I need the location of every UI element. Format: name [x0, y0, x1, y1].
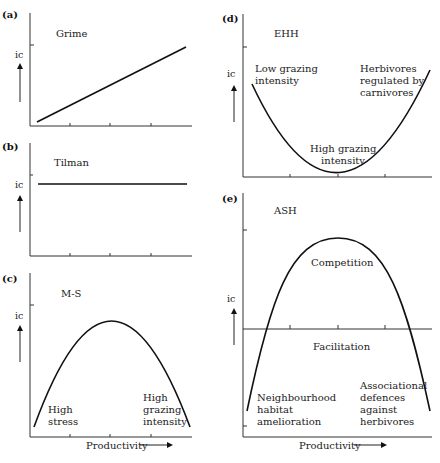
y-axis-label: ic	[15, 179, 23, 190]
note-herbivores-regulated: Herbivores	[360, 63, 417, 74]
svg-text:intensity: intensity	[321, 155, 365, 166]
svg-text:defences: defences	[360, 392, 405, 403]
panel-d-id: (d)	[222, 13, 238, 24]
x-axis-label: Productivity	[86, 440, 148, 451]
panel-e: (e) ASH ic Competition Facilitation Neig…	[222, 193, 432, 451]
competition-models-figure: (a) Grime ic (b) Tilman ic (c) M-S ic	[0, 0, 440, 463]
svg-text:intensity: intensity	[143, 416, 187, 427]
y-axis-label: ic	[227, 293, 235, 304]
svg-text:grazing: grazing	[143, 404, 182, 415]
note-neighbourhood: Neighbourhood	[257, 392, 337, 403]
note-high-grazing: High grazing	[310, 143, 377, 154]
note-high-stress: High	[48, 404, 73, 415]
svg-text:regulated by: regulated by	[360, 75, 425, 86]
svg-text:habitat: habitat	[257, 404, 293, 415]
note-competition: Competition	[311, 257, 374, 268]
svg-text:against: against	[360, 404, 397, 415]
panel-b-id: (b)	[2, 141, 18, 152]
svg-text:amelioration: amelioration	[257, 416, 322, 427]
panel-title: Tilman	[54, 157, 90, 168]
note-associational: Associational	[359, 380, 427, 391]
svg-text:carnivores: carnivores	[360, 87, 413, 98]
panel-a-id: (a)	[2, 9, 18, 20]
panel-a: (a) Grime ic	[2, 9, 192, 126]
svg-text:herbivores: herbivores	[360, 416, 414, 427]
y-axis-label: ic	[15, 310, 23, 321]
panel-d: (d) EHH ic Low grazing intensity High gr…	[222, 13, 432, 177]
panel-b: (b) Tilman ic	[2, 141, 192, 256]
y-axis-label: ic	[15, 49, 23, 60]
panel-title: ASH	[273, 205, 297, 216]
panel-title: M-S	[61, 288, 82, 299]
svg-text:intensity: intensity	[255, 75, 299, 86]
note-high-grazing: High	[143, 392, 168, 403]
note-facilitation: Facilitation	[313, 341, 371, 352]
x-axis-label: Productivity	[299, 440, 361, 451]
panel-title: EHH	[274, 28, 299, 39]
panel-e-id: (e)	[222, 193, 238, 204]
y-axis-label: ic	[227, 68, 235, 79]
panel-c: (c) M-S ic High stress High grazing inte…	[2, 273, 192, 451]
note-low-grazing: Low grazing	[255, 63, 318, 74]
grime-line	[37, 47, 186, 122]
panel-title: Grime	[56, 28, 87, 39]
svg-text:stress: stress	[48, 416, 78, 427]
panel-c-id: (c)	[2, 273, 18, 284]
